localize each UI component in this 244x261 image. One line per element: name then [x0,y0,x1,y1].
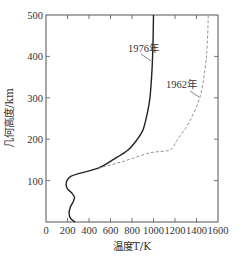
leader-line-1962 [190,91,199,97]
x-tick-label: 200 [60,225,76,236]
y-tick-label: 400 [27,51,43,62]
temperature-altitude-chart: 0200400600800100012001400160010020030040… [0,0,244,261]
x-tick-label: 1200 [165,225,186,236]
x-axis-title: 温度T/K [113,240,152,252]
series-label-1962: 1962年 [166,78,197,90]
x-tick-label: 400 [81,225,97,236]
x-tick-label: 1600 [208,225,229,236]
x-tick-label: 1000 [143,225,164,236]
y-axis-title: 几何高度/km [3,88,15,148]
y-tick-label: 300 [27,93,43,104]
x-tick-label: 600 [103,225,119,236]
y-tick-label: 200 [27,134,43,145]
labels-group: 1976年1962年 [128,42,199,97]
x-tick-label: 800 [124,225,140,236]
series-label-1976: 1976年 [128,42,159,54]
y-tick-label: 100 [27,176,43,187]
y-tick-label: 500 [27,10,43,21]
x-tick-label: 0 [43,225,48,236]
leader-line-1976 [141,54,151,61]
x-tick-label: 1400 [186,225,207,236]
